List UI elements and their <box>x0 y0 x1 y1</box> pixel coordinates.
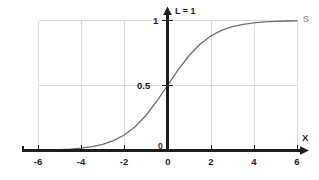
x-axis <box>22 146 309 155</box>
y-tick-label-0.5: 0.5 <box>137 81 150 91</box>
asymptote-label: L = 1 <box>175 7 196 16</box>
origin-zero-label: 0 <box>158 142 163 151</box>
chart-canvas <box>0 0 319 180</box>
x-tick-label-2: 2 <box>208 157 213 167</box>
x-tick-label--4: -4 <box>77 157 85 167</box>
x-tick-label--2: -2 <box>120 157 128 167</box>
curve-series-label: S <box>303 15 309 24</box>
sigmoid-chart-figure: -6 -4 -2 0 2 4 6 1 0.5 0 L = 1 S X <box>0 0 319 180</box>
x-tick-label-4: 4 <box>251 157 256 167</box>
y-tick-label-1: 1 <box>153 16 158 26</box>
x-tick-label-0: 0 <box>165 157 170 167</box>
y-axis <box>163 7 172 152</box>
x-tick-label--6: -6 <box>34 157 42 167</box>
y-axis-arrowhead <box>163 7 172 16</box>
x-tick-label-6: 6 <box>294 157 299 167</box>
x-axis-arrowhead <box>300 146 309 155</box>
x-axis-label: X <box>302 133 308 143</box>
